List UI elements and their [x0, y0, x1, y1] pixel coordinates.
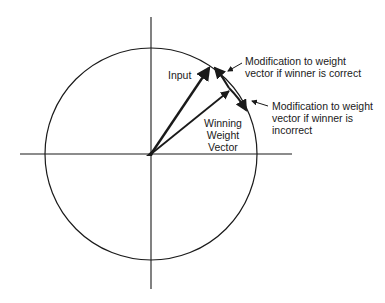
- correct-label-line-2: vector if winner is correct: [245, 67, 361, 79]
- input-label: Input: [168, 69, 191, 81]
- incorrect-modification-arc: [229, 88, 246, 110]
- correct-label-line-1: Modification to weight: [245, 55, 361, 67]
- winning-weight-vector-label: Winning Weight Vector: [204, 117, 242, 153]
- weight-vector-diagram: Input Winning Weight Vector Modification…: [0, 0, 385, 303]
- incorrect-label-line-3: incorrect: [272, 124, 373, 136]
- correct-label-pointer: [228, 63, 242, 71]
- incorrect-modification-label: Modification to weight vector if winner …: [272, 100, 373, 136]
- incorrect-label-line-2: vector if winner is: [272, 112, 373, 124]
- winning-label-line-2: Weight: [204, 129, 242, 141]
- incorrect-label-pointer: [252, 101, 268, 106]
- diagram-canvas: [0, 0, 385, 303]
- correct-modification-label: Modification to weight vector if winner …: [245, 55, 361, 79]
- correct-modification-arc: [215, 68, 229, 88]
- incorrect-label-line-1: Modification to weight: [272, 100, 373, 112]
- winning-label-line-1: Winning: [204, 117, 242, 129]
- winning-label-line-3: Vector: [204, 141, 242, 153]
